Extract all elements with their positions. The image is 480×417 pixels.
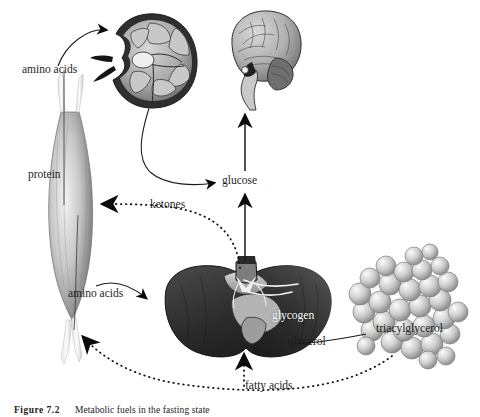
edge-adipose-to-muscle-fatty-acids [84, 338, 392, 390]
label-glucose: glucose [222, 174, 257, 186]
edge-muscle-to-kidney-amino-acids [58, 30, 106, 66]
figure-caption-text: Metabolic fuels in the fasting state [75, 405, 210, 415]
figure-canvas: amino acids protein glucose ketones amin… [0, 0, 480, 417]
label-triacylglycerol: triacylglycerol [376, 322, 443, 334]
edge-liver-to-muscle-ketones [104, 204, 240, 268]
figure-caption-number: Figure 7.2 [14, 405, 60, 415]
label-ketones: ketones [150, 198, 185, 210]
label-glycogen: glycogen [272, 309, 314, 321]
label-glycerol: glycerol [288, 335, 326, 347]
label-amino-acids-bottom: amino acids [68, 287, 123, 299]
figure-caption: Figure 7.2 Metabolic fuels in the fastin… [14, 405, 210, 415]
label-protein: protein [28, 168, 61, 180]
edge-kidney-to-glucose [141, 108, 214, 185]
label-amino-acids-top: amino acids [22, 63, 77, 75]
label-fatty-acids: fatty acids [245, 379, 293, 391]
